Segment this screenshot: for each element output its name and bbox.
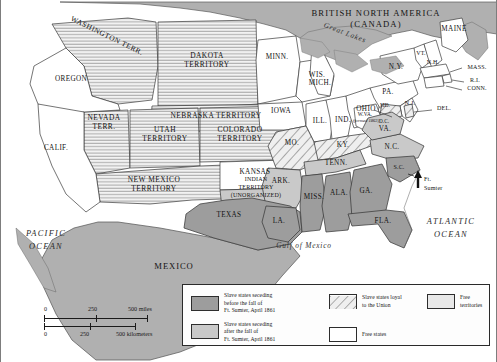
region-del bbox=[404, 104, 414, 118]
legend-item-loyal-slave: Slave states loyal to the Union bbox=[329, 294, 402, 309]
legend-line: Slave states seceding bbox=[224, 292, 275, 300]
historical-map: BRITISH NORTH AMERICA (CANADA) Great Lak… bbox=[0, 0, 497, 362]
legend-column-1: Slave states seceding before the fall of… bbox=[191, 292, 275, 348]
legend-line: Ft. Sumter, April 1861 bbox=[224, 336, 275, 344]
scale-km-tick-2: 500 kilometers bbox=[116, 331, 152, 337]
legend-swatch-seceded-before bbox=[191, 296, 219, 311]
legend-line: after the fall of bbox=[224, 328, 275, 336]
scale-bar: 0 250 500 miles 0 250 500 kilometers bbox=[44, 306, 184, 340]
legend-line: Slave states loyal bbox=[362, 294, 402, 302]
legend-line: Slave states seceding bbox=[224, 321, 275, 329]
legend-item-free-territories: Free territories bbox=[427, 294, 489, 309]
legend-line: Ft. Sumter, April 1861 bbox=[224, 307, 275, 315]
legend-swatch-seceded-after bbox=[191, 324, 219, 339]
scale-miles-tick-1: 250 bbox=[88, 306, 97, 312]
map-legend: Slave states seceding before the fall of… bbox=[182, 284, 490, 346]
legend-line: to the Union bbox=[362, 302, 402, 310]
legend-text-seceded-before: Slave states seceding before the fall of… bbox=[224, 292, 275, 315]
scale-miles-tick-0: 0 bbox=[44, 306, 47, 312]
legend-text-free-territories: Free territories bbox=[460, 294, 489, 309]
scale-miles-numbers: 0 250 500 miles bbox=[44, 306, 184, 315]
legend-column-2: Slave states loyal to the Union Free sta… bbox=[329, 294, 402, 347]
legend-item-free-states: Free states bbox=[329, 327, 402, 342]
legend-swatch-free-territories bbox=[427, 294, 455, 309]
scale-km-tick-1: 250 bbox=[80, 331, 89, 337]
legend-swatch-loyal-slave bbox=[329, 294, 357, 309]
scale-miles-bar bbox=[44, 315, 184, 322]
region-conn bbox=[424, 76, 444, 88]
scale-miles-tick-2: 500 miles bbox=[128, 306, 152, 312]
legend-text-free-states: Free states bbox=[362, 331, 386, 339]
region-utah-terr bbox=[130, 108, 200, 168]
region-ala bbox=[322, 172, 354, 232]
region-ri bbox=[442, 74, 452, 83]
scale-km-bar bbox=[44, 323, 184, 330]
legend-line: Free states bbox=[362, 331, 386, 339]
legend-swatch-free-states bbox=[329, 327, 357, 342]
legend-text-loyal-slave: Slave states loyal to the Union bbox=[362, 294, 402, 309]
region-iowa bbox=[258, 102, 306, 130]
legend-text-seceded-after: Slave states seceding after the fall of … bbox=[224, 321, 275, 344]
region-minn bbox=[256, 36, 300, 104]
legend-item-seceded-before: Slave states seceding before the fall of… bbox=[191, 292, 275, 315]
legend-item-seceded-after: Slave states seceding after the fall of … bbox=[191, 321, 275, 344]
legend-line: Free territories bbox=[460, 294, 489, 309]
legend-column-3: Free territories bbox=[427, 294, 489, 314]
scale-km-numbers: 0 250 500 kilometers bbox=[44, 331, 184, 340]
scale-km-tick-0: 0 bbox=[44, 331, 47, 337]
region-dakota-terr bbox=[158, 20, 258, 106]
legend-line: before the fall of bbox=[224, 300, 275, 308]
